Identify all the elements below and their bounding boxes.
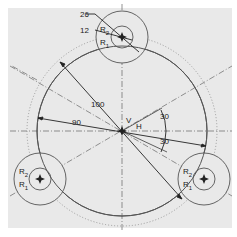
h-constraint-label: H: [136, 123, 142, 131]
angle-30-bottom-label: 30: [160, 138, 169, 146]
dim-100-label: 100: [91, 101, 104, 109]
v-constraint-label: V: [126, 117, 131, 125]
r1-label-bottom-right: R1: [183, 181, 192, 191]
r2-label-bottom-right: R2: [183, 168, 192, 178]
dim-12-label: 12: [80, 27, 89, 35]
r2-label-bottom-left: R2: [19, 168, 28, 178]
r1-label-bottom-left: R1: [19, 181, 28, 191]
dim-26-label: 26: [80, 11, 89, 19]
dim-90-label: 90: [72, 119, 81, 127]
cad-sketch: [0, 0, 237, 237]
r1-label-top: R1: [100, 39, 109, 49]
r2-label-top: R2: [100, 26, 109, 36]
angle-30-top-label: 30: [160, 113, 169, 121]
